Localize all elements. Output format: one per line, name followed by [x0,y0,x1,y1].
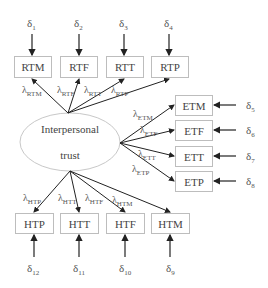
error-delta-1: δ1 [27,17,36,32]
indicator-box-htt: HTT [60,213,99,234]
indicator-box-etp: ETP [175,171,213,192]
latent-label-line1: Interpersonal [20,116,120,142]
loading-label-htf: λHTF [85,192,103,206]
loading-label-htm: λHTM [112,194,132,208]
error-delta-6: δ6 [246,124,255,139]
error-delta-4: δ4 [164,17,173,32]
indicator-box-etm: ETM [175,95,213,116]
indicator-box-ett: ETT [175,146,213,167]
error-delta-10: δ10 [119,262,131,277]
loading-label-rtm: λRTM [22,84,42,98]
loading-label-ett: λETT [138,148,156,162]
loading-label-rtp: λRTP [111,84,128,98]
indicator-box-etf: ETF [175,120,213,141]
indicator-box-rtm: RTM [14,56,52,78]
error-delta-9: δ9 [166,262,175,277]
indicator-box-htm: HTM [151,213,190,234]
indicator-box-rtf: RTF [60,56,98,78]
bottom-error-arrows [34,235,170,257]
error-delta-5: δ5 [246,99,255,114]
indicator-box-rtp: RTP [151,56,189,78]
loading-label-rtt: λRTT [84,84,102,98]
error-delta-8: δ8 [246,175,255,190]
indicator-box-htf: HTF [106,213,145,234]
error-delta-7: δ7 [246,150,255,165]
right-error-arrows [214,105,236,181]
error-delta-2: δ2 [74,17,83,32]
latent-label: Interpersonal trust [20,116,120,168]
loading-label-htp: λHTP [23,192,41,206]
loading-label-htt: λHTT [58,192,76,206]
error-delta-12: δ12 [27,262,39,277]
loading-label-etp: λETP [132,163,149,177]
loading-label-etm: λETM [133,108,153,122]
loading-label-rtf: λRTF [57,84,74,98]
error-delta-3: δ3 [119,17,128,32]
loading-label-etf: λETF [140,124,157,138]
latent-label-line2: trust [20,142,120,168]
top-error-arrows [32,34,169,55]
indicator-box-rtt: RTT [106,56,144,78]
error-delta-11: δ11 [73,262,85,277]
indicator-box-htp: HTP [15,213,54,234]
